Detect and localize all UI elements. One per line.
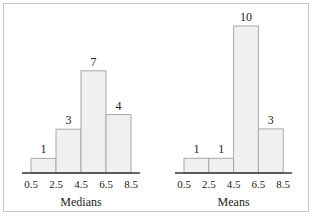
histograms-canvas: 13740.52.54.56.58.5Medians 111030.52.54.… [0,0,314,216]
means-histogram: 111030.52.54.56.58.5Means [175,10,292,209]
x-axis-title: Medians [60,195,102,209]
histogram-bar [258,129,283,173]
bar-value-label: 3 [66,113,72,127]
x-tick-label: 2.5 [49,178,63,190]
x-tick-label: 4.5 [227,178,241,190]
bar-value-label: 4 [116,99,122,113]
x-axis-title: Means [218,195,250,209]
histogram-bar [56,129,81,173]
bar-value-label: 1 [193,142,199,156]
x-tick-label: 0.5 [177,178,191,190]
x-tick-label: 0.5 [24,178,38,190]
histogram-bar [209,158,234,173]
medians-histogram: 13740.52.54.56.58.5Medians [22,55,140,209]
bar-value-label: 7 [91,55,97,69]
histogram-bar [106,115,131,173]
histogram-bar [234,26,259,173]
x-tick-label: 2.5 [202,178,216,190]
x-tick-label: 6.5 [99,178,113,190]
bar-value-label: 10 [240,10,252,24]
bar-value-label: 1 [41,142,47,156]
histogram-bar [184,158,209,173]
bar-value-label: 1 [218,142,224,156]
bar-value-label: 3 [268,113,274,127]
x-tick-label: 8.5 [124,178,138,190]
histogram-bar [31,158,56,173]
x-tick-label: 8.5 [276,178,290,190]
x-tick-label: 6.5 [252,178,266,190]
x-tick-label: 4.5 [74,178,88,190]
histogram-bar [81,71,106,173]
